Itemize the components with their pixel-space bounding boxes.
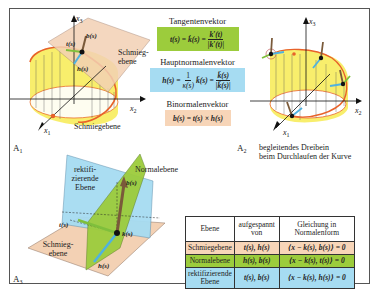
planes-table: Ebene aufgespanntvon Gleichung inNormale… [185, 216, 355, 289]
normal-plane-label: Normalebene [135, 165, 178, 174]
rect-plane-label-2: zierende [66, 174, 104, 183]
a3-figure-label: A3 [13, 275, 23, 287]
a3-t-vector-label: t(s) [59, 221, 68, 230]
table-row: Normalebene h(s), b(s) ⟨x − k(s), t(s)⟩ … [186, 255, 355, 268]
osc-plane-label-1: Schmieg- [38, 240, 78, 249]
cell-equation: ⟨x − k(s), b(s)⟩ = 0 [279, 242, 354, 255]
table-row: Schmiegebene t(s), h(s) ⟨x − k(s), b(s)⟩… [186, 242, 355, 255]
table-row: rektifizierendeEbene t(s), b(s) ⟨x − k(s… [186, 268, 355, 289]
cell-spanned: t(s), h(s) [234, 242, 279, 255]
cell-spanned: h(s), b(s) [234, 255, 279, 268]
cell-plane: Schmiegebene [186, 242, 235, 255]
header-spanned: aufgespanntvon [234, 217, 279, 242]
cell-spanned: t(s), b(s) [234, 268, 279, 289]
rect-plane-label-1: rektifi- [66, 165, 104, 174]
rect-plane-label-3: Ebene [66, 183, 104, 192]
table-header-row: Ebene aufgespanntvon Gleichung inNormale… [186, 217, 355, 242]
header-equation: Gleichung inNormalenform [279, 217, 354, 242]
a3-h-vector-label: h(s) [98, 262, 109, 271]
header-ebene: Ebene [186, 217, 235, 242]
cell-plane: rektifizierendeEbene [186, 268, 235, 289]
cell-plane: Normalebene [186, 255, 235, 268]
a3-point-label: k(s) [122, 230, 133, 239]
cell-equation: ⟨x − k(s), t(s)⟩ = 0 [279, 255, 354, 268]
osc-plane-label-2: ebene [38, 249, 78, 258]
a3-b-vector-label: b(s) [126, 179, 137, 188]
cell-equation: ⟨x − k(s), h(s)⟩ = 0 [279, 268, 354, 289]
